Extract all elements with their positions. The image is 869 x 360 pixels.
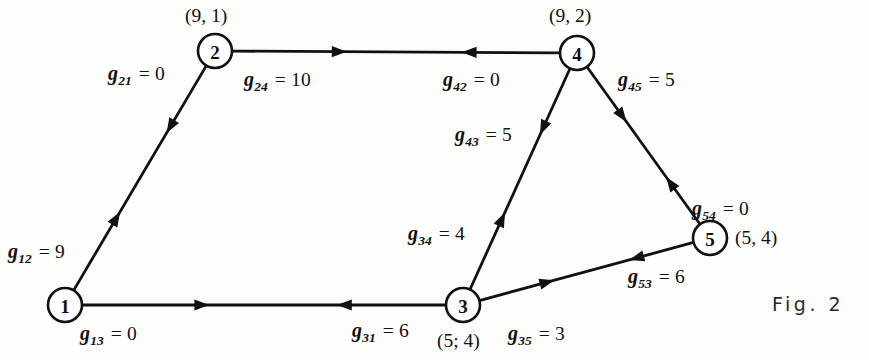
node-label-3: 3 (458, 296, 468, 317)
arrowhead-1-to-3 (194, 299, 209, 310)
node-label-5: 5 (705, 229, 715, 250)
edge-label-value: = 10 (270, 69, 311, 90)
edge-label-value: = 3 (534, 323, 565, 344)
node-annotation-2: (9, 1) (185, 5, 227, 27)
edge-2-4 (232, 51, 560, 53)
arrowhead-1-to-2 (108, 212, 120, 228)
edge-label-value: = 5 (644, 69, 675, 90)
edge-label-value: = 6 (654, 266, 685, 287)
arrowhead-3-to-4 (494, 212, 505, 228)
edge-label-value: = 4 (434, 223, 465, 244)
edge-label-subscript: 24 (254, 79, 268, 94)
edge-label-symbol: g (692, 197, 702, 219)
edge-label-symbol: g (80, 322, 90, 344)
edge-label-g42: g42 = 0 (443, 68, 500, 95)
edge-label-value: = 0 (718, 198, 749, 219)
edge-label-g12: g12 = 9 (8, 240, 65, 267)
edge-label-subscript: 35 (518, 333, 532, 348)
edge-label-value: = 9 (34, 241, 65, 262)
edge-label-subscript: 53 (638, 276, 652, 291)
edge-label-g13: g13 = 0 (80, 322, 137, 349)
edge-label-g35: g35 = 3 (508, 322, 565, 349)
node-annotation-4: (9, 2) (549, 5, 591, 27)
edge-label-subscript: 54 (702, 208, 716, 223)
edge-label-symbol: g (628, 265, 638, 287)
edge-label-subscript: 12 (18, 251, 32, 266)
edge-label-symbol: g (244, 68, 254, 90)
edge-label-g43: g43 = 5 (455, 123, 512, 150)
figure-caption: Fig. 2 (772, 293, 844, 315)
edge-label-symbol: g (352, 319, 362, 341)
edge-label-value: = 0 (106, 323, 137, 344)
arrowhead-3-to-5 (538, 279, 554, 290)
arrowhead-4-to-2 (462, 47, 477, 58)
edge-label-subscript: 21 (118, 73, 132, 88)
edge-label-g21: g21 = 0 (108, 62, 165, 89)
edge-label-value: = 0 (134, 63, 165, 84)
arrowhead-2-to-4 (332, 46, 347, 57)
edge-label-symbol: g (8, 240, 18, 262)
edge-label-subscript: 13 (90, 333, 104, 348)
edge-label-symbol: g (618, 68, 628, 90)
edge-label-value: = 5 (481, 124, 512, 145)
node-label-4: 4 (572, 44, 582, 65)
node-label-1: 1 (60, 296, 70, 317)
edge-label-g53: g53 = 6 (628, 265, 685, 292)
edge-label-symbol: g (408, 222, 418, 244)
edge-label-symbol: g (508, 322, 518, 344)
node-annotation-5: (5, 4) (735, 227, 777, 249)
edge-label-value: = 0 (469, 69, 500, 90)
node-annotation-3: (5; 4) (437, 330, 480, 352)
edge-label-symbol: g (108, 62, 118, 84)
arrowhead-2-to-1 (167, 117, 179, 133)
edge-label-subscript: 31 (362, 330, 376, 345)
arrowhead-4-to-3 (540, 119, 551, 135)
edge-label-subscript: 34 (418, 233, 432, 248)
arrowhead-5-to-3 (629, 251, 645, 262)
graph-canvas: 12345 (0, 0, 869, 360)
edges-layer (74, 46, 700, 311)
edge-label-g34: g34 = 4 (408, 222, 465, 249)
edge-3-4 (470, 68, 570, 289)
node-label-2: 2 (210, 42, 220, 63)
figure-2-graph-diagram: 12345 g12 = 9g21 = 0g24 = 10g42 = 0g45 =… (0, 0, 869, 360)
arrowhead-4-to-5 (613, 106, 626, 121)
edge-label-g54: g54 = 0 (692, 197, 749, 224)
edge-label-subscript: 43 (465, 134, 479, 149)
edge-label-subscript: 45 (628, 79, 642, 94)
arrowhead-5-to-4 (666, 177, 679, 192)
edge-label-symbol: g (455, 123, 465, 145)
edge-label-g24: g24 = 10 (244, 68, 311, 95)
edge-1-2 (74, 66, 207, 291)
edge-label-subscript: 42 (453, 79, 467, 94)
edge-label-symbol: g (443, 68, 453, 90)
arrowhead-3-to-1 (337, 299, 352, 310)
edge-label-g31: g31 = 6 (352, 319, 409, 346)
edge-label-value: = 6 (378, 320, 409, 341)
edge-label-g45: g45 = 5 (618, 68, 675, 95)
